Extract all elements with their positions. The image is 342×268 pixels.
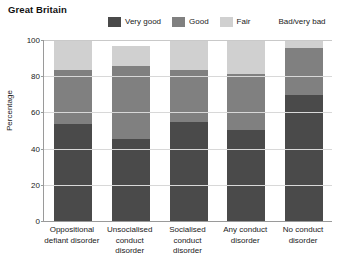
x-tick-label-line: disorder [216,236,274,247]
bar-segment[interactable] [227,41,265,74]
bar-segment[interactable] [54,70,92,124]
bar-segment[interactable] [170,122,208,222]
x-tick-label-line: disorder [274,236,332,247]
legend-swatch-icon [172,17,185,27]
legend-label: Bad/very bad [278,18,325,26]
x-tick-label-line: Socialised [159,225,217,236]
chart-title: Great Britain [8,4,67,15]
x-tick-label: No conductdisorder [274,225,332,246]
bar-stack[interactable] [227,40,265,222]
chart-container: Great Britain Very goodGoodFairBad/very … [0,0,342,268]
y-tick-mark [41,40,44,41]
legend-item[interactable]: Bad/very bad [261,17,325,27]
x-tick-label-line: disorder [159,246,217,257]
bar-segment[interactable] [170,41,208,70]
bar-stack[interactable] [285,40,323,222]
bar-segment[interactable] [285,48,323,95]
bar-segment[interactable] [112,66,150,138]
legend-swatch-icon [261,17,274,27]
x-tick-label-line: conduct [101,236,159,247]
legend-label: Very good [125,18,161,26]
y-tick-label: 80 [31,72,40,81]
bar-segment[interactable] [54,124,92,222]
bar-segment[interactable] [227,74,265,130]
x-tick-label-line: No conduct [274,225,332,236]
x-tick-label-line: defiant disorder [43,236,101,247]
legend-item[interactable]: Very good [108,17,172,27]
gridline [44,76,332,77]
y-tick-mark [41,76,44,77]
bar-segment[interactable] [54,41,92,70]
bar-segment[interactable] [227,130,265,222]
gridline [44,40,332,41]
gridline [44,149,332,150]
bar-segment[interactable] [112,41,150,46]
x-tick-label: Oppositionaldefiant disorder [43,225,101,246]
x-tick-label-line: Any conduct [216,225,274,236]
bar-segment[interactable] [285,41,323,48]
y-tick-label: 20 [31,180,40,189]
gridline [44,185,332,186]
legend-swatch-icon [220,17,233,27]
bar-segment[interactable] [112,46,150,66]
y-tick-mark [41,185,44,186]
gridline [44,112,332,113]
y-tick-label: 0 [36,217,40,226]
bar-stack[interactable] [112,40,150,222]
y-tick-label: 100 [27,36,40,45]
legend-label: Fair [237,18,251,26]
legend-item[interactable]: Fair [220,17,262,27]
plot-area: 020406080100 [43,40,332,222]
y-tick-mark [41,149,44,150]
x-tick-label: Unsocialisedconductdisorder [101,225,159,257]
chart-legend: Very goodGoodFairBad/very bad [108,17,326,27]
legend-label: Good [189,18,209,26]
legend-item[interactable]: Good [172,17,220,27]
x-tick-label-line: Oppositional [43,225,101,236]
x-tick-label: Socialisedconductdisorder [159,225,217,257]
y-tick-label: 60 [31,108,40,117]
bars-group [44,40,332,222]
x-tick-label-line: conduct [159,236,217,247]
bar-segment[interactable] [170,70,208,122]
x-tick-label-line: disorder [101,246,159,257]
y-axis-title: Percentage [5,90,14,131]
bar-stack[interactable] [54,40,92,222]
bar-segment[interactable] [112,139,150,222]
x-axis-labels: Oppositionaldefiant disorderUnsocialised… [43,225,332,267]
x-tick-label-line: Unsocialised [101,225,159,236]
x-axis-line [44,221,332,222]
bar-segment[interactable] [285,95,323,222]
bar-stack[interactable] [170,40,208,222]
y-tick-mark [41,112,44,113]
x-tick-label: Any conductdisorder [216,225,274,246]
y-tick-label: 40 [31,144,40,153]
legend-swatch-icon [108,17,121,27]
